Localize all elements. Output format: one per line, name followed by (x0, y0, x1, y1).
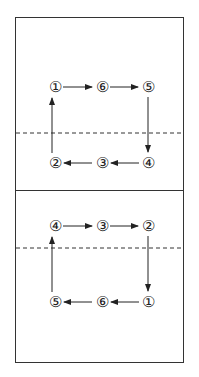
node: ④ (140, 155, 156, 171)
node: ① (47, 79, 63, 95)
node: ⑤ (140, 79, 156, 95)
node: ③ (94, 155, 110, 171)
node: ② (47, 155, 63, 171)
node: ⑥ (94, 79, 110, 95)
node: ③ (94, 218, 110, 234)
diagram-canvas (0, 0, 199, 377)
node: ⑤ (47, 294, 63, 310)
node: ④ (47, 218, 63, 234)
node: ⑥ (94, 294, 110, 310)
node: ① (140, 294, 156, 310)
node: ② (140, 218, 156, 234)
